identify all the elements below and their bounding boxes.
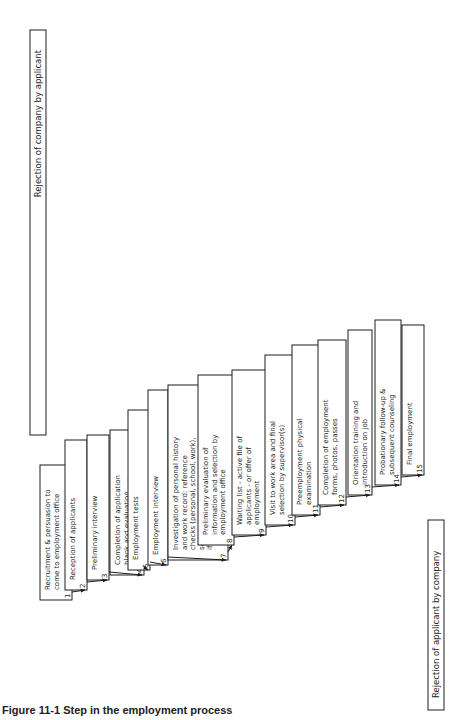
step-label-6: Employment interview <box>152 476 160 555</box>
step-number-9: 9 <box>258 529 266 533</box>
step-label-1: Recruitment & persuasion tocome to emplo… <box>44 490 61 591</box>
step-number-14: 14 <box>393 474 401 483</box>
step-number-8: 8 <box>226 539 234 543</box>
applicant-rejection-label: Rejection of company by applicant <box>33 49 43 197</box>
step-label-5: Employment tests <box>132 496 140 560</box>
step-number-6: 6 <box>160 558 168 563</box>
company-rejection-label: Rejection of applicant by company <box>431 551 441 698</box>
step-number-7: 7 <box>220 554 228 558</box>
step-arrow-7 <box>228 545 232 552</box>
step-number-1: 1 <box>64 594 72 598</box>
step-number-3: 3 <box>101 574 109 578</box>
step-number-2: 2 <box>79 584 87 588</box>
step-label-3: Preliminary interview <box>91 496 99 570</box>
step-number-13: 13 <box>364 484 372 493</box>
step-label-15: Final employment <box>406 402 414 465</box>
flowchart-canvas: Rejection of company by applicantRejecti… <box>0 0 462 720</box>
step-label-2: Reception of applicants <box>69 498 77 580</box>
figure-caption: Figure 11-1 Step in the employment proce… <box>2 704 232 716</box>
employment-process-diagram: Rejection of company by applicantRejecti… <box>0 0 462 720</box>
step-label-14: Probationary follow-up &subsequent couns… <box>379 388 396 475</box>
step-number-15: 15 <box>416 464 424 473</box>
step-number-12: 12 <box>338 494 346 503</box>
step-label-10: Visit to work area and finalselection by… <box>269 421 286 515</box>
